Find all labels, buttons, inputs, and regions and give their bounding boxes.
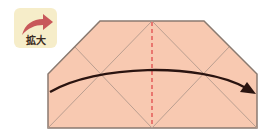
origami-fold-diagram <box>0 0 274 133</box>
